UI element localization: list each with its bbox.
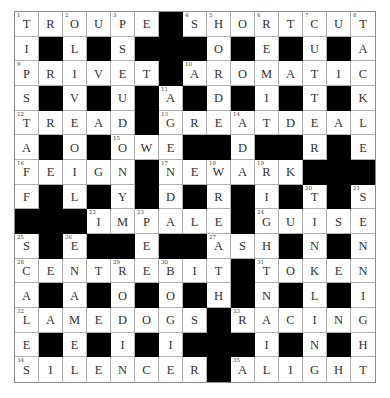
grid-cell[interactable]: D [111,111,135,136]
grid-cell[interactable]: G [159,308,183,333]
grid-cell[interactable]: R [39,61,63,86]
grid-cell[interactable]: L [63,357,87,382]
grid-cell[interactable]: N [327,308,351,333]
grid-cell[interactable]: A [351,37,375,62]
grid-cell[interactable]: R [183,111,207,136]
grid-cell[interactable]: K [351,86,375,111]
grid-cell[interactable]: T [303,61,327,86]
grid-cell[interactable]: C [279,308,303,333]
grid-cell[interactable]: E [255,37,279,62]
grid-cell[interactable]: U [111,86,135,111]
grid-cell[interactable]: E [63,333,87,358]
grid-cell[interactable]: E [15,333,39,358]
grid-cell[interactable]: Y [111,185,135,210]
grid-cell[interactable]: E [135,234,159,259]
grid-cell[interactable]: W [135,135,159,160]
grid-cell[interactable]: I [351,283,375,308]
grid-cell[interactable]: 6R [255,12,279,37]
grid-cell[interactable]: 12T [15,111,39,136]
grid-cell[interactable]: 30B [159,259,183,284]
grid-cell[interactable]: T [279,12,303,37]
grid-cell[interactable]: S [111,37,135,62]
grid-cell[interactable]: M [63,308,87,333]
grid-cell[interactable]: O [135,308,159,333]
grid-cell[interactable]: I [255,185,279,210]
grid-cell[interactable]: I [183,259,207,284]
grid-cell[interactable]: V [63,86,87,111]
grid-cell[interactable]: N [351,234,375,259]
grid-cell[interactable]: C [135,357,159,382]
grid-cell[interactable]: E [135,12,159,37]
grid-cell[interactable]: S [327,209,351,234]
grid-cell[interactable]: L [183,209,207,234]
grid-cell[interactable]: A [63,283,87,308]
grid-cell[interactable]: E [39,160,63,185]
grid-cell[interactable]: 27A [207,234,231,259]
grid-cell[interactable]: 5H [207,12,231,37]
grid-cell[interactable]: 24G [255,209,279,234]
grid-cell[interactable]: R [39,12,63,37]
grid-cell[interactable]: H [255,234,279,259]
grid-cell[interactable]: O [231,61,255,86]
grid-cell[interactable]: 19R [255,160,279,185]
grid-cell[interactable]: O [111,283,135,308]
grid-cell[interactable]: G [87,160,111,185]
grid-cell[interactable]: E [39,259,63,284]
grid-cell[interactable]: S [183,308,207,333]
grid-cell[interactable]: 25S [15,234,39,259]
grid-cell[interactable]: T [351,357,375,382]
grid-cell[interactable]: L [63,37,87,62]
grid-cell[interactable]: 1T [15,12,39,37]
grid-cell[interactable]: N [255,283,279,308]
grid-cell[interactable]: E [303,111,327,136]
grid-cell[interactable]: I [303,209,327,234]
grid-cell[interactable]: 28C [15,259,39,284]
grid-cell[interactable]: T [303,86,327,111]
grid-cell[interactable]: E [327,259,351,284]
grid-cell[interactable]: O [159,283,183,308]
grid-cell[interactable]: I [255,86,279,111]
grid-cell[interactable]: R [39,111,63,136]
grid-cell[interactable]: N [303,234,327,259]
grid-cell[interactable]: A [15,283,39,308]
grid-cell[interactable]: O [279,259,303,284]
grid-cell[interactable]: N [111,357,135,382]
grid-cell[interactable]: U [327,12,351,37]
grid-cell[interactable]: 29R [111,259,135,284]
grid-cell[interactable]: O [63,135,87,160]
grid-cell[interactable]: G [303,357,327,382]
grid-cell[interactable]: R [207,61,231,86]
grid-cell[interactable]: E [351,135,375,160]
grid-cell[interactable]: E [183,160,207,185]
grid-cell[interactable]: N [111,160,135,185]
grid-cell[interactable]: H [351,333,375,358]
grid-cell[interactable]: I [159,333,183,358]
grid-cell[interactable]: 23P [135,209,159,234]
grid-cell[interactable]: I [63,160,87,185]
grid-cell[interactable]: 4S [183,12,207,37]
grid-cell[interactable]: 10A [183,61,207,86]
grid-cell[interactable]: 21S [351,185,375,210]
grid-cell[interactable]: L [63,185,87,210]
grid-cell[interactable]: 20T [303,185,327,210]
grid-cell[interactable]: A [255,308,279,333]
grid-cell[interactable]: E [87,357,111,382]
grid-cell[interactable]: U [279,209,303,234]
grid-cell[interactable]: 3P [111,12,135,37]
grid-cell[interactable]: E [159,357,183,382]
grid-cell[interactable]: E [63,111,87,136]
grid-cell[interactable]: T [207,259,231,284]
grid-cell[interactable]: T [87,259,111,284]
grid-cell[interactable]: 34S [15,357,39,382]
grid-cell[interactable]: 16F [15,160,39,185]
grid-cell[interactable]: E [351,209,375,234]
grid-cell[interactable]: I [279,357,303,382]
grid-cell[interactable]: A [279,61,303,86]
grid-cell[interactable]: 2O [63,12,87,37]
grid-cell[interactable]: D [111,308,135,333]
grid-cell[interactable]: A [231,160,255,185]
grid-cell[interactable]: D [207,86,231,111]
grid-cell[interactable]: K [279,160,303,185]
grid-cell[interactable]: E [135,259,159,284]
grid-cell[interactable]: O [207,37,231,62]
